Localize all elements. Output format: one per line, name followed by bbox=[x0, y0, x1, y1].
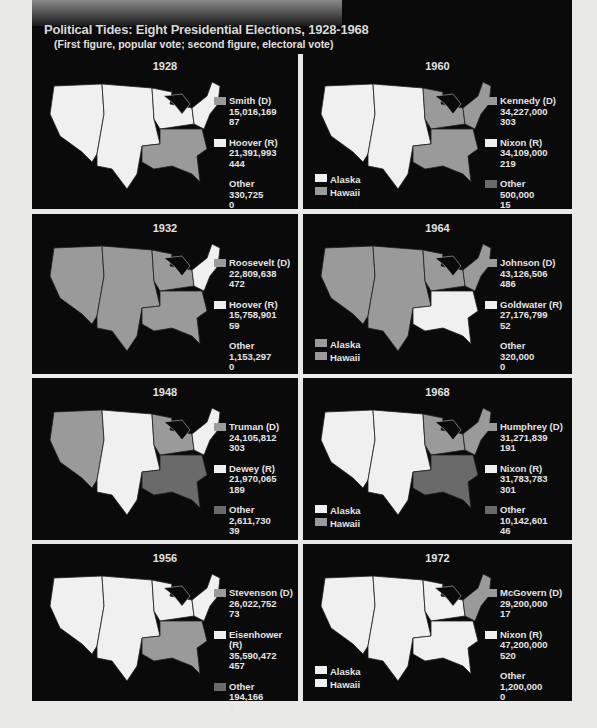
region-midwest bbox=[423, 88, 465, 129]
candidate-name: Other bbox=[229, 341, 290, 352]
party-swatch bbox=[485, 301, 497, 309]
election-panel-1928: 1928 Smith (D) 15,016,169 87 Hoover (R) … bbox=[32, 52, 298, 209]
electoral-vote: 472 bbox=[229, 279, 290, 290]
region-plains bbox=[368, 246, 431, 351]
region-plains bbox=[368, 84, 431, 189]
panel-year: 1932 bbox=[32, 222, 298, 234]
party-swatch bbox=[214, 139, 226, 147]
popular-vote: 194,166 bbox=[229, 692, 298, 703]
popular-vote: 27,176,799 bbox=[500, 310, 562, 321]
region-plains bbox=[97, 410, 160, 515]
hawaii-label: Hawaii bbox=[330, 679, 360, 690]
candidate-name: Other bbox=[500, 341, 562, 352]
legend-entry: Humphrey (D) 31,271,839 191 bbox=[485, 422, 563, 454]
legend-entry: Kennedy (D) 34,227,000 303 bbox=[485, 96, 556, 128]
legend-entry: Other 2,611,730 39 bbox=[214, 505, 279, 537]
party-swatch bbox=[485, 506, 497, 514]
party-swatch bbox=[214, 683, 226, 691]
us-map bbox=[42, 74, 232, 204]
hawaii-swatch bbox=[315, 187, 327, 195]
legend-entry: Other 500,000 15 bbox=[485, 179, 556, 211]
panel-year: 1972 bbox=[303, 552, 572, 564]
electoral-vote: 219 bbox=[500, 159, 556, 170]
panel-legend: Johnson (D) 43,126,506 486 Goldwater (R)… bbox=[485, 258, 562, 383]
alaska-label: Alaska bbox=[330, 505, 361, 516]
legend-entry: Goldwater (R) 27,176,799 52 bbox=[485, 300, 562, 332]
election-panel-1972: 1972 McGovern (D) 29,200,000 17 Nixon (R… bbox=[303, 544, 572, 701]
hawaii-swatch bbox=[315, 352, 327, 360]
electoral-vote: 87 bbox=[229, 117, 278, 128]
electoral-vote: 1 bbox=[229, 703, 298, 714]
candidate-name: Other bbox=[229, 505, 279, 516]
panel-legend: Stevenson (D) 26,022,752 73 Eisenhower (… bbox=[214, 588, 298, 723]
legend-entry: Other 320,000 0 bbox=[485, 341, 562, 373]
legend-entry: Other 10,142,601 46 bbox=[485, 505, 563, 537]
legend-entry: Nixon (R) 31,783,783 301 bbox=[485, 464, 563, 496]
us-map bbox=[42, 566, 232, 696]
candidate-name: Other bbox=[500, 179, 556, 190]
region-west bbox=[50, 84, 104, 162]
legend-entry: Hoover (R) 15,758,901 59 bbox=[214, 300, 290, 332]
alaska-label: Alaska bbox=[330, 666, 361, 677]
region-midwest bbox=[152, 88, 194, 129]
region-plains bbox=[368, 410, 431, 515]
hawaii-label: Hawaii bbox=[330, 352, 360, 363]
electoral-vote: 189 bbox=[229, 485, 279, 496]
party-swatch bbox=[485, 180, 497, 188]
panel-year: 1948 bbox=[32, 386, 298, 398]
popular-vote: 1,153,297 bbox=[229, 352, 290, 363]
electoral-vote: 0 bbox=[500, 692, 562, 703]
candidate-name: Truman (D) bbox=[229, 422, 279, 433]
candidate-name: Roosevelt (D) bbox=[229, 258, 290, 269]
party-swatch bbox=[214, 97, 226, 105]
region-plains bbox=[368, 576, 431, 681]
region-west bbox=[321, 410, 375, 488]
electoral-vote: 301 bbox=[500, 485, 563, 496]
candidate-name: Other bbox=[229, 179, 278, 190]
popular-vote: 1,200,000 bbox=[500, 682, 562, 693]
party-swatch bbox=[485, 465, 497, 473]
alaska-label: Alaska bbox=[330, 339, 361, 350]
alaska-hawaii-legend: Alaska Hawaii bbox=[315, 173, 361, 199]
legend-entry: Nixon (R) 47,200,000 520 bbox=[485, 630, 562, 662]
party-swatch bbox=[214, 506, 226, 514]
popular-vote: 15,758,901 bbox=[229, 310, 290, 321]
popular-vote: 34,109,000 bbox=[500, 148, 556, 159]
region-midwest bbox=[152, 250, 194, 291]
electoral-vote: 17 bbox=[500, 609, 562, 620]
election-panel-1968: 1968 Humphrey (D) 31,271,839 191 Nixon (… bbox=[303, 378, 572, 540]
electoral-vote: 39 bbox=[229, 526, 279, 537]
alaska-swatch bbox=[315, 505, 327, 513]
us-map bbox=[42, 400, 232, 530]
party-swatch bbox=[485, 423, 497, 431]
region-plains bbox=[97, 576, 160, 681]
candidate-name: Johnson (D) bbox=[500, 258, 562, 269]
party-swatch bbox=[214, 465, 226, 473]
legend-entry: Other 330,725 0 bbox=[214, 179, 278, 211]
page-subtitle: (First figure, popular vote; second figu… bbox=[54, 38, 333, 50]
region-midwest bbox=[152, 414, 194, 455]
party-swatch bbox=[214, 423, 226, 431]
legend-entry: Dewey (R) 21,970,065 189 bbox=[214, 464, 279, 496]
hawaii-swatch bbox=[315, 518, 327, 526]
region-west bbox=[50, 246, 104, 324]
panel-legend: Smith (D) 15,016,169 87 Hoover (R) 21,39… bbox=[214, 96, 278, 221]
panel-legend: Roosevelt (D) 22,809,638 472 Hoover (R) … bbox=[214, 258, 290, 383]
region-plains bbox=[97, 84, 160, 189]
region-plains bbox=[97, 246, 160, 351]
panel-legend: Truman (D) 24,105,812 303 Dewey (R) 21,9… bbox=[214, 422, 279, 547]
party-swatch bbox=[214, 631, 226, 639]
legend-entry: Other 194,166 1 bbox=[214, 682, 298, 714]
electoral-vote: 303 bbox=[229, 443, 279, 454]
region-west bbox=[321, 246, 375, 324]
party-swatch bbox=[214, 259, 226, 267]
party-swatch bbox=[485, 139, 497, 147]
candidate-name: Humphrey (D) bbox=[500, 422, 563, 433]
popular-vote: 31,783,783 bbox=[500, 474, 563, 485]
election-panel-1932: 1932 Roosevelt (D) 22,809,638 472 Hoover… bbox=[32, 214, 298, 374]
party-swatch bbox=[214, 301, 226, 309]
popular-vote: 21,391,993 bbox=[229, 148, 278, 159]
candidate-name: McGovern (D) bbox=[500, 588, 562, 599]
legend-entry: McGovern (D) 29,200,000 17 bbox=[485, 588, 562, 620]
region-midwest bbox=[423, 580, 465, 621]
